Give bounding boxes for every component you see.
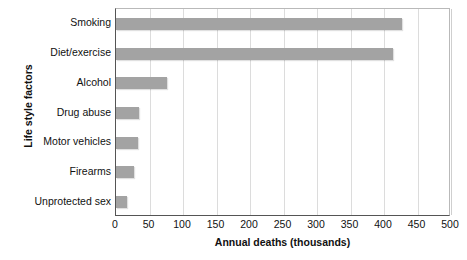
x-axis-tick-labels: 050100150200250300350400450500 bbox=[115, 218, 450, 232]
bar bbox=[116, 18, 402, 30]
bar bbox=[116, 196, 127, 208]
bar bbox=[116, 166, 134, 178]
bar bbox=[116, 137, 138, 149]
y-axis-tick-label: Alcohol bbox=[14, 77, 111, 88]
x-axis-tick-label: 150 bbox=[207, 218, 225, 230]
bar-chart: Life style factors SmokingDiet/exerciseA… bbox=[0, 0, 467, 260]
x-axis-tick-label: 100 bbox=[173, 218, 191, 230]
x-axis-tick-label: 0 bbox=[112, 218, 118, 230]
y-axis-tick-labels: SmokingDiet/exerciseAlcoholDrug abuseMot… bbox=[14, 8, 111, 216]
y-axis-tick-label: Motor vehicles bbox=[14, 136, 111, 147]
bar bbox=[116, 107, 139, 119]
y-axis-tick-label: Diet/exercise bbox=[14, 47, 111, 58]
plot-area bbox=[115, 8, 450, 216]
x-axis-tick-label: 200 bbox=[240, 218, 258, 230]
x-axis-tick-label: 450 bbox=[408, 218, 426, 230]
x-axis-tick-label: 250 bbox=[274, 218, 292, 230]
gridline-500 bbox=[451, 9, 452, 215]
bar bbox=[116, 48, 393, 60]
x-axis-tick-label: 400 bbox=[374, 218, 392, 230]
x-axis-tick-label: 500 bbox=[441, 218, 459, 230]
y-axis-tick-label: Firearms bbox=[14, 166, 111, 177]
y-axis-tick-label: Smoking bbox=[14, 17, 111, 28]
x-axis-title: Annual deaths (thousands) bbox=[115, 236, 450, 248]
x-axis-tick-label: 350 bbox=[341, 218, 359, 230]
bar-series bbox=[116, 9, 449, 215]
x-axis-tick-label: 300 bbox=[307, 218, 325, 230]
y-axis-tick-label: Drug abuse bbox=[14, 107, 111, 118]
x-axis-tick-label: 50 bbox=[143, 218, 155, 230]
bar bbox=[116, 77, 167, 89]
y-axis-tick-label: Unprotected sex bbox=[14, 196, 111, 207]
